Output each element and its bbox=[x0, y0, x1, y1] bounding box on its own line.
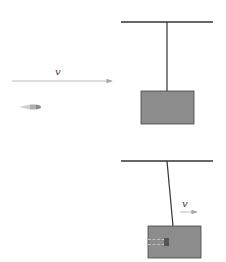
pendulum-diagram: v v bbox=[0, 0, 226, 262]
velocity-label-bottom: v bbox=[182, 198, 188, 209]
string-bottom bbox=[167, 161, 173, 226]
velocity-label-top: v bbox=[55, 66, 61, 77]
block-bottom bbox=[148, 226, 201, 258]
bullet-icon bbox=[19, 105, 41, 110]
block-top bbox=[141, 91, 194, 124]
after-scene: v bbox=[121, 161, 213, 258]
before-scene: v bbox=[12, 22, 213, 124]
